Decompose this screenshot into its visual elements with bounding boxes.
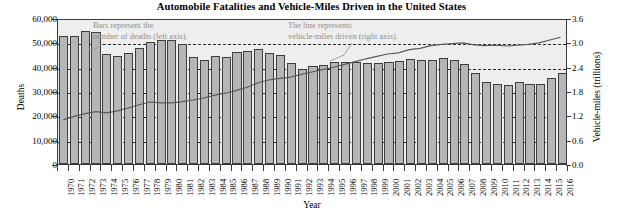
x-axis-tick-label: 1982 [196,179,206,196]
y-axis-right-tick-label: 1.2 [572,111,583,121]
x-axis-tick-label: 2007 [467,179,477,196]
x-axis-tick-label: 1987 [250,179,260,196]
x-axis-tick-label: 1984 [218,179,228,196]
y-axis-left-tick [52,19,57,20]
x-axis-tick-label: 2013 [532,179,542,196]
x-axis-tick-label: 1979 [163,179,173,196]
y-axis-right-tick [566,68,571,69]
x-axis-tick-label: 2012 [521,179,531,196]
x-axis-tick-label: 1994 [326,179,336,196]
x-axis-labels: 1970197119721973197419751976197719781979… [57,171,567,197]
y-axis-right-tick-label: 0.6 [572,136,583,146]
x-axis-tick-label: 2015 [554,179,564,196]
x-axis-tick-label: 1992 [304,179,314,196]
x-axis-tick-label: 1989 [272,179,282,196]
y-axis-right-tick [566,116,571,117]
chart-figure: Automobile Fatalities and Vehicle-Miles … [0,0,623,218]
x-axis-tick-label: 2011 [511,179,521,196]
x-axis-tick [567,165,568,171]
x-axis-tick-label: 1983 [207,179,217,196]
y-axis-left-tick [52,116,57,117]
x-axis-tick-label: 1970 [66,179,76,196]
x-axis-tick-label: 2014 [543,179,553,196]
x-axis-tick-label: 1995 [337,179,347,196]
x-axis-tick-label: 2003 [424,179,434,196]
x-axis-tick-label: 1972 [87,179,97,196]
y-axis-left-tick [52,92,57,93]
y-axis-right-tick [566,92,571,93]
y-axis-right-tick-label: 0.0 [572,160,583,170]
x-axis-tick-label: 2002 [413,179,423,196]
x-axis-tick-label: 2005 [445,179,455,196]
y-axis-right-tick-label: 3.0 [572,38,583,48]
x-axis-tick-label: 1996 [348,179,358,196]
x-axis-tick-label: 2010 [500,179,510,196]
x-axis-tick-label: 1980 [174,179,184,196]
x-axis-tick-label: 2016 [565,179,575,196]
x-axis-tick-label: 1988 [261,179,271,196]
chart-title: Automobile Fatalities and Vehicle-Miles … [0,0,623,14]
annotation-line: The line represents vehicle-miles driven… [288,21,398,42]
y-axis-right-tick [566,19,571,20]
annotation-bars: Bars represent the number of deaths (lef… [93,21,188,42]
x-axis-tick-label: 1999 [380,179,390,196]
x-axis-tick-label: 2004 [435,179,445,196]
x-axis-tick-label: 2006 [456,179,466,196]
x-axis-tick-label: 1986 [239,179,249,196]
y-axis-left-tick [52,141,57,142]
y-axis-left-title: Deaths [16,57,26,137]
y-axis-right-tick [566,43,571,44]
y-axis-left-tick [52,68,57,69]
x-axis-tick-label: 1976 [131,179,141,196]
y-axis-right-title: Vehicle-miles (trillions) [592,32,602,162]
x-axis-tick-label: 1974 [109,179,119,196]
x-axis-tick-label: 1993 [315,179,325,196]
x-axis-tick-label: 2009 [489,179,499,196]
x-axis-tick-label: 1973 [98,179,108,196]
x-axis-tick-label: 1971 [76,179,86,196]
x-axis-title: Year [57,200,567,210]
y-axis-right-tick-label: 2.4 [572,63,583,73]
x-axis-tick-label: 1991 [293,179,303,196]
y-axis-right-tick [566,141,571,142]
y-axis-left-tick [52,43,57,44]
y-axis-right-tick-label: 1.8 [572,87,583,97]
x-axis-tick-label: 2008 [478,179,488,196]
x-axis-tick-label: 1985 [228,179,238,196]
x-axis-tick-label: 1977 [142,179,152,196]
y-axis-right-tick-label: 3.6 [572,14,583,24]
x-axis-tick-label: 2000 [391,179,401,196]
x-axis-tick-label: 1975 [120,179,130,196]
x-axis-tick-label: 1981 [185,179,195,196]
x-axis-tick-label: 1978 [152,179,162,196]
x-axis-tick-label: 2001 [402,179,412,196]
x-axis-tick-label: 1990 [283,179,293,196]
x-axis-tick-label: 1997 [359,179,369,196]
vehicle-miles-line [63,37,560,119]
x-axis-tick-label: 1998 [369,179,379,196]
